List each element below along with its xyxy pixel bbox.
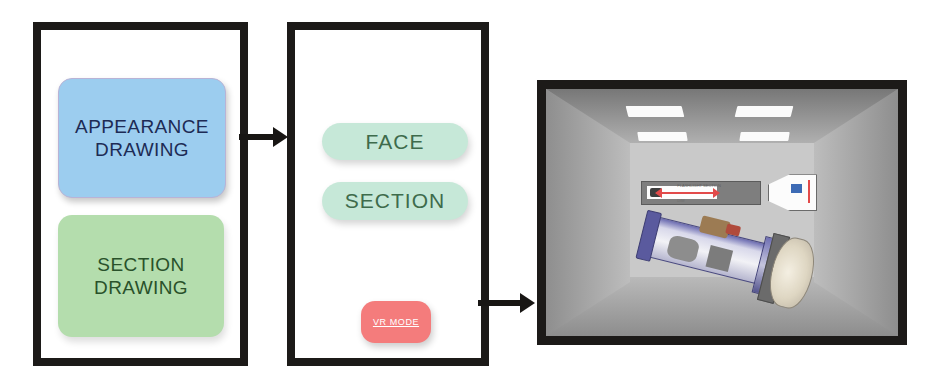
card-appearance-drawing[interactable]: APPEARANCE DRAWING: [58, 78, 226, 198]
arrow-shaft: [239, 134, 277, 140]
arrow-head-icon: [273, 127, 288, 147]
panel-drawings: APPEARANCE DRAWING SECTION DRAWING: [33, 22, 248, 366]
ceiling-light-icon: [735, 106, 794, 117]
card-appearance-line2: DRAWING: [95, 138, 189, 161]
button-section-label: SECTION: [345, 189, 445, 213]
button-face-label: FACE: [366, 130, 425, 154]
dimension-arrow-vertical-icon: [808, 180, 810, 203]
ceiling-light-icon: [739, 132, 790, 141]
button-vr-mode-label: VR MODE: [373, 317, 419, 327]
panel-vr-preview[interactable]: FLASHLIGHT SECTION DIM: [537, 80, 907, 345]
section-drawing-body: FLASHLIGHT SECTION DIM: [641, 181, 761, 205]
panel-modes: FACE SECTION VR MODE: [287, 22, 489, 366]
section-drawing-lens: [791, 184, 801, 193]
vr-object-section-drawing[interactable]: FLASHLIGHT SECTION DIM: [641, 178, 817, 208]
button-section-mode[interactable]: SECTION: [322, 182, 468, 220]
section-drawing-annotation-bottom: DIM: [677, 198, 684, 203]
dimension-arrow-icon: [661, 192, 714, 194]
button-face-mode[interactable]: FACE: [322, 123, 468, 160]
ceiling-light-icon: [637, 132, 688, 141]
arrow-shaft: [478, 300, 524, 306]
ceiling-light-icon: [626, 106, 685, 117]
card-appearance-line1: APPEARANCE: [75, 115, 209, 138]
card-section-line2: DRAWING: [94, 276, 188, 299]
diagram-stage: APPEARANCE DRAWING SECTION DRAWING FACE …: [0, 0, 930, 390]
card-section-line1: SECTION: [97, 253, 184, 276]
arrow-head-icon: [520, 293, 535, 313]
card-section-drawing[interactable]: SECTION DRAWING: [58, 215, 224, 337]
button-vr-mode[interactable]: VR MODE: [361, 301, 431, 343]
vr-room-scene: FLASHLIGHT SECTION DIM: [546, 89, 898, 336]
